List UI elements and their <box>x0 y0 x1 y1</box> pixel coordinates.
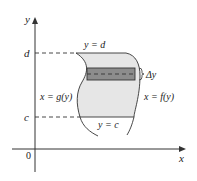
bottom-boundary-label: y = c <box>97 119 119 130</box>
diagram-canvas: y x 0 d c y = d y = c x = g(y) x = f(y) … <box>0 0 197 181</box>
y-axis-label: y <box>24 13 30 25</box>
x-axis-label: x <box>178 152 184 164</box>
origin-label: 0 <box>26 150 31 161</box>
delta-y-label: Δy <box>145 69 157 80</box>
y-axis-arrow-icon <box>32 17 38 24</box>
right-boundary-label: x = f(y) <box>143 91 175 103</box>
d-label: d <box>24 47 30 59</box>
c-label: c <box>24 111 29 123</box>
left-boundary-label: x = g(y) <box>39 91 73 103</box>
top-boundary-label: y = d <box>83 39 106 50</box>
